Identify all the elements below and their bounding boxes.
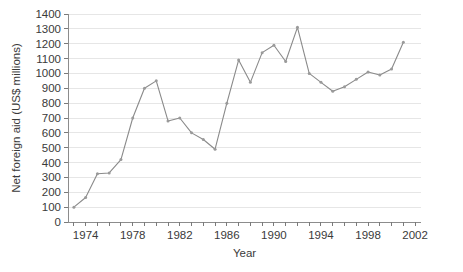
y-tick-label: 600	[42, 127, 61, 139]
x-tick-label: 1982	[167, 229, 193, 241]
data-point-marker	[390, 67, 393, 70]
data-point-marker	[272, 44, 275, 47]
data-point-marker	[237, 59, 240, 62]
data-point-marker	[378, 73, 381, 76]
data-point-marker	[155, 79, 158, 82]
data-point-marker	[296, 26, 299, 29]
y-tick-label: 1300	[35, 23, 61, 35]
y-tick-label: 1000	[35, 67, 61, 79]
y-axis-title: Net foreign aid (US$ millions)	[10, 43, 22, 193]
series-line-net-foreign-aid	[74, 27, 403, 207]
data-point-marker	[167, 119, 170, 122]
y-tick-label: 1400	[35, 8, 61, 20]
x-tick-label: 1990	[261, 229, 287, 241]
y-tick-label: 1200	[35, 38, 61, 50]
y-tick-label: 0	[55, 216, 61, 228]
x-tick-label: 1978	[120, 229, 146, 241]
data-point-marker	[402, 41, 405, 44]
y-tick-label: 1100	[36, 53, 61, 65]
data-point-marker	[367, 70, 370, 73]
y-tick-label: 300	[42, 171, 61, 183]
data-point-marker	[343, 85, 346, 88]
data-point-marker	[249, 81, 252, 84]
x-axis-title: Year	[233, 247, 256, 259]
data-point-marker	[214, 148, 217, 151]
data-point-marker	[96, 172, 99, 175]
data-point-marker	[108, 171, 111, 174]
line-chart: 0100200300400500600700800900100011001200…	[0, 0, 463, 272]
data-point-marker	[84, 196, 87, 199]
y-tick-label: 700	[42, 112, 61, 124]
y-tick-label: 800	[42, 97, 61, 109]
data-point-marker	[178, 117, 181, 120]
x-tick-label: 1974	[73, 229, 99, 241]
y-tick-label: 900	[42, 82, 61, 94]
chart-canvas: 0100200300400500600700800900100011001200…	[0, 0, 463, 272]
data-point-marker	[143, 87, 146, 90]
y-tick-label: 400	[42, 157, 61, 169]
data-point-marker	[308, 72, 311, 75]
data-point-marker	[261, 51, 264, 54]
y-tick-label: 500	[42, 142, 61, 154]
y-tick-label: 100	[42, 201, 61, 213]
x-tick-label: 1998	[355, 229, 381, 241]
data-point-marker	[131, 117, 134, 120]
x-tick-label: 1994	[308, 229, 334, 241]
data-point-marker	[284, 60, 287, 63]
y-tick-label: 200	[42, 186, 61, 198]
data-point-marker	[202, 138, 205, 141]
x-tick-label: 2002	[402, 229, 428, 241]
data-point-marker	[319, 81, 322, 84]
data-point-marker	[119, 158, 122, 161]
data-point-marker	[72, 206, 75, 209]
data-point-marker	[225, 102, 228, 105]
data-point-marker	[190, 131, 193, 134]
data-point-marker	[331, 90, 334, 93]
data-point-marker	[355, 78, 358, 81]
x-tick-label: 1986	[214, 229, 240, 241]
